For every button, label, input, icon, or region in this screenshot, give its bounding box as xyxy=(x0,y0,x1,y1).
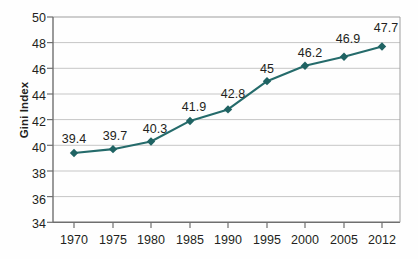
x-tick-label: 2012 xyxy=(352,234,412,247)
x-axis-tick-labels: 1970 1975 1980 1985 1990 1995 2000 2005 … xyxy=(0,0,418,259)
line-chart: Gini Index 50 48 46 44 42 40 38 36 34 xyxy=(0,0,418,259)
